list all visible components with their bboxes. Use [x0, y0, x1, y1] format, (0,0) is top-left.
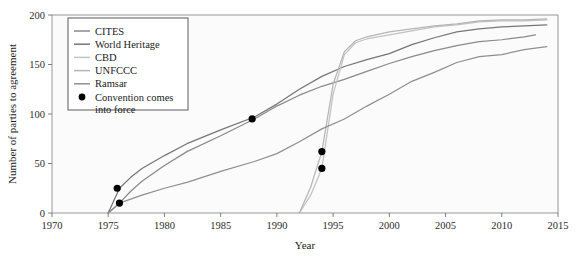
y-tick-label: 200: [29, 10, 45, 21]
x-tick-label: 2015: [548, 220, 569, 231]
legend-force-label-line1: Convention comes: [95, 92, 173, 103]
legend-force-dot: [79, 94, 86, 101]
y-tick-label: 50: [35, 158, 46, 169]
legend-label-cites: CITES: [95, 26, 124, 37]
x-tick-label: 2010: [491, 220, 512, 231]
legend-label-world-heritage: World Heritage: [95, 39, 160, 50]
x-tick-label: 1970: [42, 220, 63, 231]
x-tick-label: 2000: [379, 220, 400, 231]
x-axis-title: Year: [295, 239, 316, 251]
line-chart: 0501001502001970197519801985199019952000…: [0, 0, 576, 263]
convention-in-force-marker: [318, 148, 325, 155]
y-axis-title: Number of parties to agreement: [6, 44, 18, 184]
x-tick-label: 1995: [323, 220, 344, 231]
x-tick-label: 1980: [154, 220, 175, 231]
convention-in-force-marker: [249, 115, 256, 122]
y-tick-label: 150: [29, 59, 45, 70]
convention-in-force-marker: [116, 200, 123, 207]
legend-label-cbd: CBD: [95, 52, 117, 63]
y-tick-label: 0: [40, 208, 45, 219]
chart-figure: 0501001502001970197519801985199019952000…: [0, 0, 576, 263]
legend-label-unfccc: UNFCCC: [95, 65, 137, 76]
x-tick-label: 1985: [210, 220, 231, 231]
convention-in-force-marker: [114, 185, 121, 192]
y-tick-label: 100: [29, 109, 45, 120]
x-tick-label: 1990: [266, 220, 287, 231]
legend-label-ramsar: Ramsar: [95, 78, 128, 89]
convention-in-force-marker: [318, 165, 325, 172]
legend-force-label-line2: into force: [95, 104, 136, 115]
x-tick-label: 1975: [98, 220, 119, 231]
x-tick-label: 2005: [435, 220, 456, 231]
